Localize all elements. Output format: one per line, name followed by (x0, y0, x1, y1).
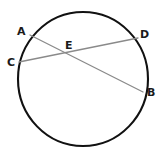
chord-c-d (19, 38, 138, 62)
point-label-b: B (147, 87, 155, 98)
point-label-c: C (7, 57, 15, 68)
geometry-canvas (0, 0, 164, 154)
main-circle (18, 12, 148, 146)
point-label-d: D (140, 29, 149, 40)
point-label-e: E (65, 40, 73, 51)
point-label-a: A (17, 26, 26, 37)
chord-a-b (30, 35, 143, 92)
geometry-figure: A C D B E (0, 0, 164, 154)
